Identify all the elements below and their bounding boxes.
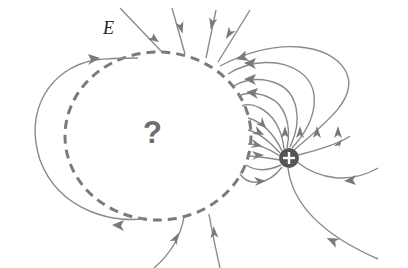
- field-line-arc-8: [248, 144, 280, 156]
- arrow-arc-9: [252, 151, 264, 160]
- arrow-left-bottom: [112, 220, 124, 231]
- arrow-arc-up-4: [334, 126, 342, 138]
- field-line-bottom-1: [154, 217, 184, 268]
- field-line-top-1: [120, 8, 162, 52]
- positive-charge-icon: [279, 148, 299, 168]
- field-label-e: E: [103, 18, 114, 39]
- field-line-right: [297, 162, 378, 178]
- arrow-arc-7: [252, 126, 264, 135]
- field-line-arc-6: [248, 118, 282, 151]
- field-line-bottom-right: [288, 168, 378, 259]
- arrow-arc-up-2: [296, 126, 304, 138]
- arrow-bottom-right: [325, 234, 341, 248]
- field-line-right-up: [298, 136, 350, 155]
- arrow-arc-11: [254, 177, 266, 186]
- field-line-arc-10: [246, 165, 281, 170]
- unknown-region-label: ?: [143, 117, 162, 148]
- electric-field-diagram: [0, 0, 408, 268]
- arrow-right-up: [332, 139, 345, 152]
- arrow-bottom-1: [170, 231, 183, 245]
- field-line-top-2: [172, 8, 185, 54]
- arrow-top-4: [222, 27, 235, 41]
- field-line-arc-7: [248, 130, 280, 153]
- field-line-top-3: [206, 10, 216, 58]
- field-line-bottom-2: [209, 214, 220, 268]
- arrow-right: [344, 175, 356, 185]
